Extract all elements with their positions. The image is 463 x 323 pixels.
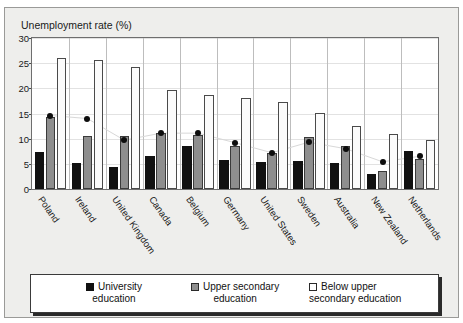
bar-upper	[378, 171, 388, 189]
bar-below	[278, 102, 288, 189]
x-axis-label: Ireland	[73, 194, 99, 224]
bar-university	[256, 162, 266, 189]
group-separator	[69, 38, 70, 189]
bar-below	[94, 60, 104, 189]
overall-rate-marker	[232, 140, 238, 146]
gridline	[32, 38, 438, 39]
bar-upper	[156, 133, 166, 189]
bar-below	[57, 58, 67, 189]
overall-rate-marker	[47, 113, 53, 119]
bar-below	[426, 140, 436, 189]
x-axis-label: New Zealand	[369, 194, 410, 246]
bar-below	[315, 113, 325, 189]
bar-below	[389, 134, 399, 189]
y-axis-tick-label: 20	[18, 83, 29, 94]
legend-label-line2: education	[86, 293, 142, 305]
legend-item-university: Universityeducation	[86, 281, 142, 305]
overall-rate-marker	[158, 130, 164, 136]
bar-upper	[193, 135, 203, 189]
x-axis-label: Netherlands	[406, 194, 444, 242]
overall-rate-marker	[417, 153, 423, 159]
group-separator	[180, 38, 181, 189]
x-axis-label: Canada	[147, 194, 175, 228]
group-separator	[364, 38, 365, 189]
group-separator	[143, 38, 144, 189]
group-separator	[401, 38, 402, 189]
legend-label-line2: secondary education	[309, 293, 401, 305]
group-separator	[217, 38, 218, 189]
legend-swatch-university-icon	[86, 283, 94, 291]
x-axis-label: Australia	[332, 194, 362, 231]
bar-university	[330, 163, 340, 189]
bar-upper	[120, 136, 130, 189]
bar-upper	[267, 153, 277, 189]
legend-label-line1: University	[98, 281, 142, 292]
x-axis-label: Sweden	[295, 194, 324, 228]
bar-upper	[83, 136, 93, 189]
overall-rate-marker	[195, 130, 201, 136]
bar-below	[167, 90, 177, 189]
overall-rate-marker	[84, 116, 90, 122]
overall-rate-marker	[380, 159, 386, 165]
y-axis-tick-label: 15	[18, 108, 29, 119]
legend-label-line1: Below upper	[321, 281, 377, 292]
chart-legend: UniversityeducationUpper secondaryeducat…	[30, 274, 439, 313]
bar-university	[182, 146, 192, 189]
bar-university	[145, 156, 155, 189]
overall-rate-marker	[343, 146, 349, 152]
legend-swatch-upper-icon	[191, 283, 199, 291]
group-separator	[253, 38, 254, 189]
x-axis-label: Belgium	[184, 194, 213, 228]
x-axis-label: Germany	[221, 194, 252, 232]
bar-upper	[230, 146, 240, 189]
y-axis-tick-label: 30	[18, 33, 29, 44]
y-axis-tick-label: 10	[18, 133, 29, 144]
bar-university	[109, 167, 119, 189]
x-axis-label: United States	[258, 194, 300, 247]
x-axis-labels: PolandIrelandUnited KingdomCanadaBelgium…	[31, 192, 439, 268]
legend-label-line1: Upper secondary	[203, 281, 279, 292]
overall-rate-marker	[269, 150, 275, 156]
x-axis-label: Poland	[36, 194, 62, 225]
bar-below	[241, 98, 251, 189]
bar-below	[352, 126, 362, 189]
bar-upper	[341, 146, 351, 189]
bar-below	[204, 95, 214, 189]
group-separator	[327, 38, 328, 189]
figure-frame: Unemployment rate (%) 051015202530 Polan…	[4, 7, 459, 318]
bar-university	[72, 163, 82, 189]
legend-swatch-below-icon	[309, 283, 317, 291]
overall-rate-marker	[121, 137, 127, 143]
bar-university	[35, 152, 45, 189]
cropped-text-sliver	[0, 0, 463, 7]
legend-label-line2: education	[191, 293, 279, 305]
bar-below	[131, 67, 141, 189]
bar-upper	[46, 117, 56, 189]
bar-university	[404, 151, 414, 189]
legend-item-below: Below uppersecondary education	[309, 281, 401, 305]
legend-item-upper: Upper secondaryeducation	[191, 281, 279, 305]
y-axis: 051015202530	[5, 37, 29, 190]
group-separator	[106, 38, 107, 189]
chart-screenshot: Unemployment rate (%) 051015202530 Polan…	[0, 0, 463, 323]
bar-university	[293, 161, 303, 189]
plot-area	[31, 37, 439, 190]
plot-wrapper	[31, 37, 439, 190]
overall-rate-marker	[306, 139, 312, 145]
group-separator	[290, 38, 291, 189]
bar-upper	[415, 159, 425, 189]
bar-university	[367, 174, 377, 189]
bar-university	[219, 160, 229, 189]
y-axis-title: Unemployment rate (%)	[21, 19, 132, 31]
y-axis-tick-label: 25	[18, 58, 29, 69]
